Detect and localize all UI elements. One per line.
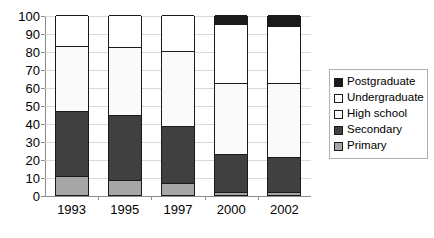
bar-segment-high-school [268, 83, 300, 158]
x-tick-label: 2000 [201, 203, 261, 216]
bar-segment-undergraduate [215, 24, 247, 84]
legend-item-undergraduate: Undergraduate [334, 90, 424, 106]
legend-item-primary: Primary [334, 138, 424, 154]
legend-label: Undergraduate [347, 92, 424, 104]
x-tick-label: 1995 [95, 203, 155, 216]
bar-segment-primary [56, 176, 88, 196]
x-tick-label: 1997 [148, 203, 208, 216]
x-tick-mark [98, 196, 99, 200]
bar-segment-high-school [162, 51, 194, 127]
y-tick-mark [41, 34, 45, 35]
x-tick-mark [205, 196, 206, 200]
y-tick-mark [41, 70, 45, 71]
y-tick-label: 100 [2, 10, 40, 23]
legend-label: Postgraduate [347, 76, 415, 88]
legend-swatch-icon [334, 110, 343, 119]
chart-legend: PostgraduateUndergraduateHigh schoolSeco… [329, 69, 428, 159]
y-tick-label: 40 [2, 118, 40, 131]
x-tick-label: 2002 [254, 203, 314, 216]
bar-segment-high-school [56, 46, 88, 113]
legend-item-high-school: High school [334, 106, 424, 122]
x-tick-label: 1993 [42, 203, 102, 216]
bar-2002 [267, 16, 301, 196]
bar-2000 [214, 16, 248, 196]
y-tick-label: 50 [2, 100, 40, 113]
y-tick-mark [41, 196, 45, 197]
y-tick-mark [41, 142, 45, 143]
y-tick-label: 90 [2, 28, 40, 41]
bar-segment-high-school [109, 47, 141, 116]
bar-segment-high-school [215, 83, 247, 154]
legend-swatch-icon [334, 126, 343, 135]
bar-segment-undergraduate [56, 15, 88, 47]
bar-segment-primary [109, 180, 141, 196]
bar-segment-secondary [56, 111, 88, 177]
bar-segment-postgraduate [215, 15, 247, 25]
y-tick-label: 20 [2, 154, 40, 167]
x-tick-mark [151, 196, 152, 200]
y-axis-labels: 0102030405060708090100 [0, 0, 40, 238]
legend-label: High school [347, 108, 407, 120]
bar-1997 [161, 16, 195, 196]
y-tick-mark [41, 124, 45, 125]
legend-item-secondary: Secondary [334, 122, 424, 138]
y-tick-label: 70 [2, 64, 40, 77]
legend-swatch-icon [334, 94, 343, 103]
legend-label: Secondary [347, 124, 402, 136]
y-tick-mark [41, 16, 45, 17]
y-tick-mark [41, 106, 45, 107]
y-tick-mark [41, 160, 45, 161]
stacked-bar-chart: 0102030405060708090100 19931995199720002… [0, 0, 434, 238]
legend-swatch-icon [334, 142, 343, 151]
bar-segment-undergraduate [109, 15, 141, 48]
y-tick-label: 60 [2, 82, 40, 95]
x-tick-mark [258, 196, 259, 200]
plot-region: 0102030405060708090100 19931995199720002… [0, 0, 320, 238]
y-tick-mark [41, 52, 45, 53]
legend-item-postgraduate: Postgraduate [334, 74, 424, 90]
legend-swatch-icon [334, 78, 343, 87]
bar-1993 [55, 16, 89, 196]
bar-segment-primary [162, 183, 194, 196]
bar-segment-undergraduate [162, 15, 194, 52]
bar-segment-undergraduate [268, 26, 300, 85]
y-tick-label: 10 [2, 172, 40, 185]
bar-segment-secondary [162, 126, 194, 185]
bar-segment-postgraduate [268, 15, 300, 27]
bar-segment-secondary [215, 154, 247, 194]
y-tick-label: 80 [2, 46, 40, 59]
bar-1995 [108, 16, 142, 196]
bar-segment-secondary [109, 115, 141, 181]
y-tick-mark [41, 88, 45, 89]
legend-label: Primary [347, 140, 387, 152]
y-tick-label: 30 [2, 136, 40, 149]
y-tick-mark [41, 178, 45, 179]
y-tick-label: 0 [2, 190, 40, 203]
bar-segment-secondary [268, 157, 300, 193]
plot-area [45, 16, 311, 196]
gridline [45, 196, 311, 197]
